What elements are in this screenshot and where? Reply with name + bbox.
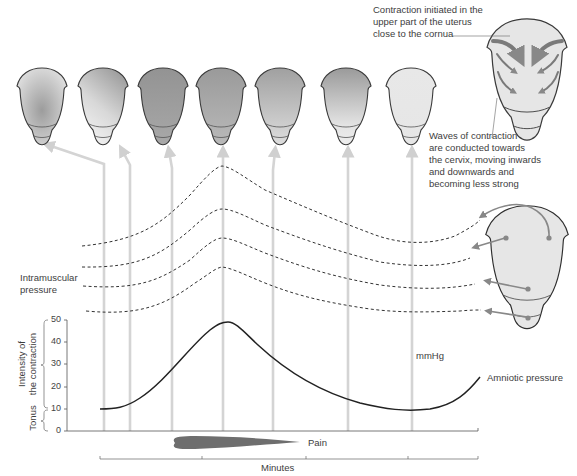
label-mmhg: mmHg <box>416 350 444 362</box>
y-tick-20: 20 <box>45 381 61 391</box>
label-pain: Pain <box>308 437 327 449</box>
uterus-state-3 <box>138 68 188 145</box>
diagram-canvas <box>0 0 577 476</box>
y-tick-0: 0 <box>45 425 61 435</box>
guide-lines <box>48 145 412 431</box>
uterus-state-4 <box>196 68 246 145</box>
uterus-state-6 <box>321 68 371 145</box>
y-tick-30: 30 <box>45 358 61 368</box>
y-tick-40: 40 <box>45 336 61 346</box>
minutes-axis <box>100 456 478 459</box>
intramuscular-pressure-curves <box>82 166 481 312</box>
uterus-state-2 <box>78 68 128 145</box>
y-axis <box>64 320 67 431</box>
label-intramuscular-pressure: Intramuscular pressure <box>20 272 78 296</box>
uterus-state-1 <box>17 68 67 145</box>
uterus-pressure-points <box>486 206 569 329</box>
y-tick-50: 50 <box>45 314 61 324</box>
uterus-state-5 <box>255 68 305 145</box>
annotation-contraction-initiated: Contraction initiated in the upper part … <box>373 4 483 40</box>
label-amniotic-pressure: Amniotic pressure <box>487 372 563 384</box>
label-intensity-of-contraction: Intensity of the contraction <box>16 324 38 404</box>
label-tonus: Tonus <box>27 403 38 433</box>
y-tick-10: 10 <box>45 403 61 413</box>
amniotic-pressure-curve <box>100 322 480 410</box>
annotation-waves-of-contraction: Waves of contraction are conducted towar… <box>429 130 541 190</box>
label-minutes: Minutes <box>261 462 294 474</box>
pain-shape <box>174 436 300 449</box>
